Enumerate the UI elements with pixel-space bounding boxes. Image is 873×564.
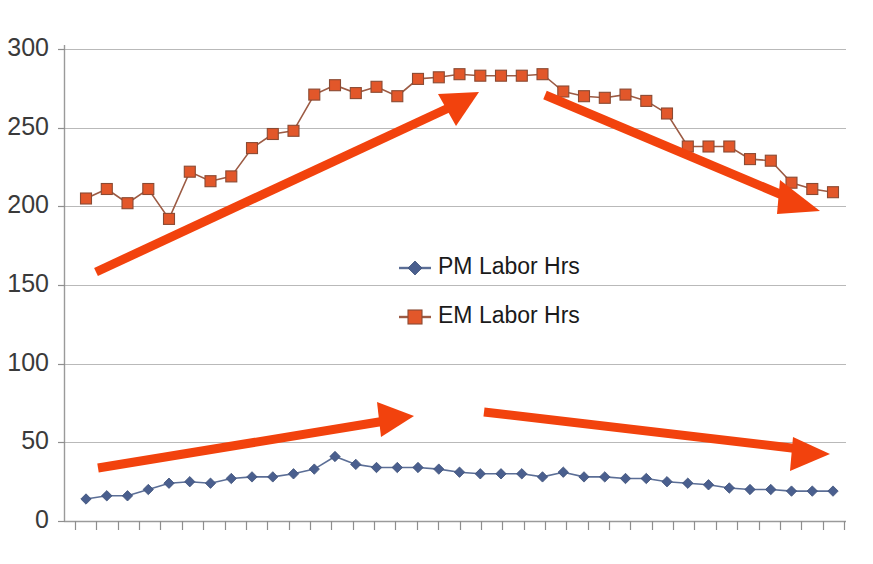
data-point-marker — [351, 459, 361, 469]
data-point-marker — [81, 494, 91, 504]
data-point-marker — [600, 472, 611, 482]
data-point-marker — [766, 484, 777, 494]
data-point-marker — [247, 472, 257, 482]
data-point-marker — [807, 486, 818, 496]
arrow-em-up — [96, 92, 479, 272]
data-point-marker — [433, 72, 444, 83]
legend-marker-pm-diamond-icon — [408, 261, 422, 275]
data-point-marker — [392, 462, 402, 472]
data-point-marker — [496, 70, 507, 81]
arrow-pm-up — [98, 402, 414, 468]
data-point-marker — [641, 473, 652, 483]
data-point-marker — [620, 89, 631, 100]
data-point-marker — [309, 89, 320, 100]
data-point-marker — [496, 469, 506, 479]
data-point-marker — [537, 472, 547, 482]
data-point-marker — [350, 88, 361, 99]
data-point-marker — [683, 478, 694, 488]
data-point-marker — [517, 469, 528, 479]
data-point-marker — [724, 483, 735, 493]
legend-marker-em-square-icon — [408, 310, 422, 324]
data-point-marker — [434, 464, 444, 474]
annotation-arrows — [96, 92, 830, 471]
data-point-marker — [413, 462, 423, 472]
data-point-marker — [184, 166, 195, 177]
data-point-marker — [371, 81, 382, 92]
data-point-marker — [164, 478, 174, 488]
data-point-marker — [454, 69, 465, 80]
data-point-marker — [392, 91, 403, 102]
series-markers-pm — [81, 451, 838, 504]
data-point-marker — [579, 472, 589, 482]
data-point-marker — [475, 469, 485, 479]
data-point-marker — [247, 143, 258, 154]
data-point-marker — [641, 95, 652, 106]
data-point-marker — [413, 73, 424, 84]
y-axis-tick-label: 150 — [7, 269, 49, 297]
data-point-marker — [537, 69, 548, 80]
y-axis-tick-label: 0 — [35, 505, 49, 533]
y-axis-tick-label: 300 — [7, 33, 49, 61]
chart-container: 300250200150100500 — [0, 0, 873, 564]
legend-label-pm: PM Labor Hrs — [438, 253, 580, 279]
data-point-marker — [703, 141, 714, 152]
data-point-marker — [122, 491, 132, 501]
legend-item-em: EM Labor Hrs — [399, 302, 580, 328]
data-point-marker — [579, 91, 590, 102]
data-point-marker — [828, 187, 839, 198]
data-point-marker — [205, 478, 215, 488]
data-point-marker — [745, 484, 755, 494]
data-point-marker — [371, 462, 381, 472]
data-point-marker — [268, 472, 278, 482]
data-point-marker — [807, 184, 818, 195]
arrow-em-down — [545, 95, 820, 214]
data-point-marker — [185, 477, 195, 487]
series-pm-labor-hrs — [81, 451, 838, 504]
data-point-marker — [475, 70, 486, 81]
arrow-pm-down — [484, 412, 830, 471]
data-point-marker — [330, 80, 341, 91]
data-point-marker — [745, 154, 756, 165]
line-chart: 300250200150100500 — [0, 0, 873, 564]
data-point-marker — [454, 467, 464, 477]
data-point-marker — [662, 477, 672, 487]
data-point-marker — [143, 184, 154, 195]
y-axis-tick-label: 100 — [7, 348, 49, 376]
data-point-marker — [828, 486, 838, 496]
data-point-marker — [226, 473, 236, 483]
data-point-marker — [164, 213, 175, 224]
data-point-marker — [205, 176, 216, 187]
data-point-marker — [288, 469, 298, 479]
data-point-marker — [288, 125, 299, 136]
data-point-marker — [558, 86, 569, 97]
chart-legend: PM Labor Hrs EM Labor Hrs — [399, 253, 580, 328]
data-point-marker — [724, 141, 735, 152]
data-point-marker — [81, 193, 92, 204]
legend-label-em: EM Labor Hrs — [438, 302, 580, 328]
data-point-marker — [143, 484, 153, 494]
data-point-marker — [765, 155, 776, 166]
y-axis-tick-label: 200 — [7, 190, 49, 218]
data-point-marker — [662, 108, 673, 119]
legend-item-pm: PM Labor Hrs — [399, 253, 580, 279]
series-em-labor-hrs — [81, 69, 839, 225]
data-point-marker — [786, 486, 796, 496]
data-point-marker — [516, 70, 527, 81]
data-point-marker — [703, 480, 713, 490]
y-axis-tick-labels: 300250200150100500 — [7, 33, 49, 533]
data-point-marker — [309, 464, 319, 474]
data-point-marker — [101, 184, 112, 195]
x-axis-tick-marks — [76, 521, 845, 530]
data-point-marker — [122, 198, 133, 209]
data-point-marker — [599, 92, 610, 103]
data-point-marker — [620, 473, 630, 483]
y-axis-tick-label: 50 — [21, 426, 49, 454]
series-markers-em — [81, 69, 839, 225]
data-point-marker — [102, 491, 113, 501]
data-point-marker — [226, 171, 237, 182]
data-point-marker — [330, 451, 340, 461]
data-point-marker — [267, 129, 278, 140]
data-point-marker — [558, 467, 569, 477]
y-axis-tick-label: 250 — [7, 112, 49, 140]
